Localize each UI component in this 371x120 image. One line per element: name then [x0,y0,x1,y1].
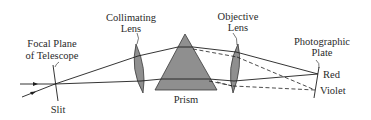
violet-upper-to-lens [193,49,237,57]
violet-extra [217,82,232,86]
collimated-upper [138,47,178,56]
ray-lower-to-lens [55,81,141,84]
label-focal-plane-1: Focal Plane [27,38,77,49]
label-objective-2: Lens [228,22,248,33]
label-focal-plane-2: of Telescope [25,50,78,61]
collimating-leader [137,33,139,44]
plate-leader [316,60,319,68]
violet-lower-to-plate [233,86,315,90]
label-collimating-1: Collimating [106,12,157,23]
label-slit: Slit [51,104,66,115]
arrow-top [33,82,38,86]
arrow-bottom [30,92,36,96]
prism [155,34,217,90]
spectrograph-diagram: Focal Plane of Telescope Slit Collimatin… [0,0,371,120]
label-prism: Prism [174,94,199,105]
label-photographic-1: Photographic [294,36,350,47]
red-upper-to-plate [236,52,318,74]
focal-plane-leader [55,62,59,67]
violet-upper-to-plate [237,57,315,90]
photographic-plate [314,67,319,98]
red-lower-to-plate [234,74,318,81]
objective-leader [233,33,237,45]
label-photographic-2: Plate [312,47,333,58]
label-collimating-2: Lens [121,23,141,34]
collimating-lens [134,44,144,93]
ray-in-bottom [22,84,55,97]
red-upper-to-lens [193,47,236,52]
label-objective-1: Objective [218,11,259,22]
label-violet: Violet [320,85,346,96]
label-red: Red [323,69,341,80]
